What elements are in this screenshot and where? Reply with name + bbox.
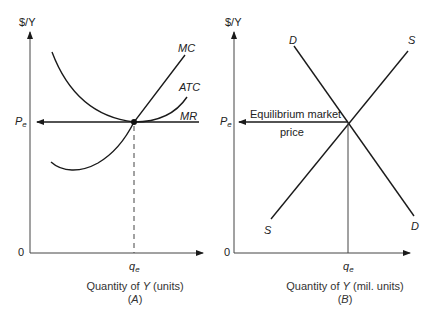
panel-a-origin-label: 0	[18, 246, 24, 258]
equilibrium-annotation-line2: price	[280, 126, 304, 138]
panel-a-x-axis-title: Quantity of Y (units) (A)	[50, 280, 220, 306]
panel-b-y-axis-label: $/Y	[225, 16, 242, 28]
panel-a-price-label: Pe	[15, 115, 27, 131]
atc-curve	[52, 52, 187, 122]
supply-bottom-label: S	[264, 224, 271, 236]
mc-curve	[51, 55, 185, 170]
demand-top-label: D	[289, 34, 297, 46]
panel-b-price-label: Pe	[220, 115, 232, 131]
equilibrium-annotation-line1: Equilibrium market	[250, 108, 341, 120]
panel-b-origin-label: 0	[224, 246, 230, 258]
panel-b-quantity-label: qe	[343, 260, 354, 276]
demand-bottom-label: D	[411, 220, 419, 232]
demand-curve	[294, 46, 414, 216]
atc-label: ATC	[179, 81, 200, 93]
panel-b-x-axis-title: Quantity of Y (mil. units) (B)	[250, 280, 438, 306]
panel-a-y-axis-label: $/Y	[19, 16, 36, 28]
panel-a-quantity-label: qe	[129, 260, 140, 276]
mc-label: MC	[178, 42, 195, 54]
mr-label: MR	[180, 110, 197, 122]
panel-b-axes	[234, 32, 410, 253]
diagram-canvas	[0, 0, 438, 319]
equilibrium-point	[131, 119, 137, 125]
supply-top-label: S	[408, 34, 415, 46]
